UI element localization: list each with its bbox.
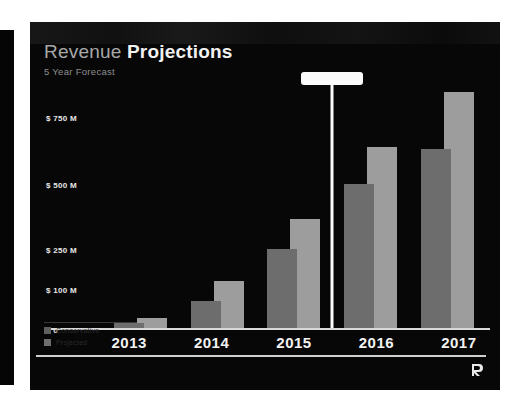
legend-item-1[interactable]: Projected [44, 339, 164, 346]
title-bold-word: Projections [127, 41, 233, 62]
x-axis-label-2015: 2015 [253, 334, 335, 356]
bar-2017-conservative[interactable] [421, 149, 451, 328]
page-title: Revenue Projections [44, 42, 233, 63]
bar-2016-conservative[interactable] [344, 184, 374, 328]
x-axis-underline [36, 355, 486, 357]
bar-groups [102, 80, 486, 328]
bar-2015-conservative[interactable] [267, 249, 297, 328]
bar-group-2016 [332, 80, 409, 328]
y-axis-tick-250: $ 250 M [46, 246, 77, 255]
title-light-word: Revenue [44, 41, 121, 62]
screenshot-root: Revenue Projections 5 Year Forecast $ 75… [0, 0, 522, 412]
page-subtitle: 5 Year Forecast [44, 66, 233, 77]
chart-axis-area [102, 80, 486, 330]
legend-label: Projected [56, 339, 87, 346]
x-axis-label-2017: 2017 [418, 334, 500, 356]
left-edge-strip [0, 30, 14, 385]
legend-swatch-icon [44, 339, 51, 346]
bar-group-2017 [409, 80, 486, 328]
y-axis-tick-100: $ 100 M [46, 286, 77, 295]
title-block: Revenue Projections 5 Year Forecast [44, 42, 233, 77]
y-axis-tick-500: $ 500 M [46, 181, 77, 190]
y-axis-tick-750: $ 750 M [46, 113, 77, 122]
legend-swatch-icon [44, 327, 51, 334]
bar-2014-conservative[interactable] [191, 301, 221, 328]
legend-item-0[interactable]: Conservative [44, 327, 164, 334]
bar-group-2014 [179, 80, 256, 328]
brand-logo-icon [469, 362, 486, 378]
chart-plot-area: $ 750 M$ 500 M$ 250 M$ 100 M$ 0 [44, 80, 486, 330]
legend-rows: ConservativeProjected [44, 327, 164, 346]
bar-group-2015 [256, 80, 333, 328]
bar-group-2013 [102, 80, 179, 328]
x-axis-label-2016: 2016 [335, 334, 417, 356]
chart-slide-panel: Revenue Projections 5 Year Forecast $ 75… [30, 22, 500, 390]
legend-label: Conservative [56, 327, 99, 334]
y-axis-labels: $ 750 M$ 500 M$ 250 M$ 100 M$ 0 [44, 80, 104, 330]
x-axis-label-2014: 2014 [170, 334, 252, 356]
bar-2013-conservative[interactable] [114, 323, 144, 328]
